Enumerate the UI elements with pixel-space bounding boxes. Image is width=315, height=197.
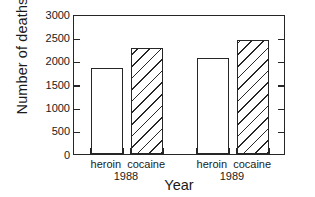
y-axis-tick-labels: 3000 2500 2000 1500 1000 500 0 (28, 0, 70, 197)
x-axis-tick (236, 148, 237, 154)
y-axis-tick-right (278, 39, 284, 40)
y-tick-label: 1000 (28, 103, 70, 114)
x-axis-tick (269, 148, 270, 154)
plot-inner (74, 16, 284, 154)
y-axis-tick-right (278, 109, 284, 110)
y-tick-label: 3000 (28, 10, 70, 21)
y-axis-tick (74, 85, 80, 86)
bar-chart: Number of deaths 3000 2500 2000 1500 100… (0, 0, 315, 197)
y-tick-label: 2000 (28, 56, 70, 67)
x-axis-tick (163, 148, 164, 154)
bar-heroin-1989 (197, 58, 229, 154)
y-axis-tick (74, 39, 80, 40)
y-tick-label: 2500 (28, 33, 70, 44)
x-axis-tick (130, 148, 131, 154)
y-tick-label: 500 (28, 126, 70, 137)
x-category-label: cocaine (116, 158, 176, 170)
y-axis-tick-right (278, 132, 284, 133)
x-category-label: cocaine (222, 158, 282, 170)
x-axis-title: Year (73, 177, 285, 193)
y-axis-tick-right (278, 62, 284, 63)
x-axis-tick (122, 148, 123, 154)
plot-area (73, 15, 285, 155)
bar-heroin-1988 (91, 68, 123, 154)
x-axis-tick (196, 148, 197, 154)
y-axis-tick (74, 132, 80, 133)
x-axis-tick (90, 148, 91, 154)
bar-cocaine-1989 (237, 40, 269, 154)
y-axis-tick (74, 62, 80, 63)
y-axis-tick (74, 109, 80, 110)
y-tick-label: 1500 (28, 80, 70, 91)
y-tick-label: 0 (28, 150, 70, 161)
x-axis-tick (228, 148, 229, 154)
y-axis-tick-right (278, 85, 284, 86)
bar-cocaine-1988 (131, 48, 163, 154)
